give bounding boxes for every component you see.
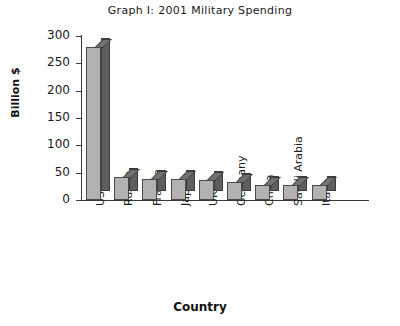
bar <box>283 185 298 200</box>
bar-front-face <box>171 179 186 200</box>
bar-front-face <box>283 185 298 200</box>
bar-front-face <box>312 185 327 200</box>
y-axis-tick-label: 300 <box>6 28 70 42</box>
bar <box>171 179 186 200</box>
plot-area <box>82 36 368 200</box>
bar-front-face <box>227 182 242 200</box>
bar-front-face <box>255 185 270 200</box>
bar <box>227 182 242 200</box>
chart-container: Graph I: 2001 Military Spending Billion … <box>0 0 400 326</box>
x-axis-title: Country <box>0 300 400 314</box>
bar <box>312 185 327 200</box>
bar <box>86 47 101 200</box>
bar-side-face <box>101 38 110 191</box>
bar <box>199 180 214 200</box>
bar-front-face <box>114 177 129 200</box>
bar <box>142 179 157 200</box>
y-axis-tick <box>76 200 82 201</box>
y-axis-tick-label: 250 <box>6 55 70 69</box>
bar-front-face <box>199 180 214 200</box>
y-axis-tick-label: 150 <box>6 110 70 124</box>
bar <box>255 185 270 200</box>
y-axis-tick-label: 0 <box>6 192 70 206</box>
y-axis-tick-label: 50 <box>6 165 70 179</box>
bar <box>114 177 129 200</box>
bar-front-face <box>86 47 101 200</box>
chart-title: Graph I: 2001 Military Spending <box>0 4 400 17</box>
y-axis-tick-label: 200 <box>6 83 70 97</box>
bar-front-face <box>142 179 157 200</box>
y-axis-tick-label: 100 <box>6 137 70 151</box>
